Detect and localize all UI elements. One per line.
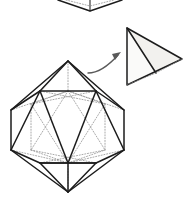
hidden-diag-4 — [68, 104, 105, 163]
hidden-diag-1 — [31, 91, 68, 150]
hidden-cross-6 — [68, 91, 124, 110]
cropped-polyhedron-top — [58, 0, 122, 11]
icosahedron-visible-edges — [11, 61, 124, 192]
upper-front-ring — [11, 91, 124, 110]
edge-bl-to-bottom — [40, 163, 68, 192]
figure-canvas — [0, 0, 189, 197]
hidden-diag-3 — [31, 104, 68, 163]
icosahedron — [11, 61, 124, 192]
extracted-tetrahedron — [127, 28, 182, 85]
edge-apex-to-fr — [68, 61, 96, 91]
geometry-figure: A line-art geometric figure showing an i… — [0, 0, 189, 197]
edge-apex-to-fl — [40, 61, 68, 91]
extraction-arrow — [88, 52, 121, 73]
arrow-head-icon — [112, 52, 121, 60]
edge-br-to-bottom — [68, 163, 96, 192]
edge-fl-to-bottom-front — [40, 91, 68, 163]
arrow-curve-path — [88, 55, 118, 73]
edge-fr-to-bottom-front — [68, 91, 96, 163]
